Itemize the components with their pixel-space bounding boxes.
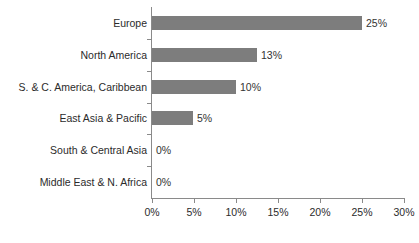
- x-axis-tick: [320, 198, 321, 203]
- x-axis-tick-label: 30%: [393, 206, 414, 218]
- category-label-row: S. & C. America, Caribbean: [0, 71, 147, 103]
- category-label-row: East Asia & Pacific: [0, 103, 147, 135]
- bar-europe: [152, 16, 362, 30]
- category-label-row: Middle East & N. Africa: [0, 166, 147, 198]
- category-label: S. & C. America, Caribbean: [19, 81, 147, 93]
- bar-row: 5%: [152, 103, 404, 135]
- x-axis-tick-label: 0%: [144, 206, 159, 218]
- x-axis-tick-label: 5%: [186, 206, 201, 218]
- category-label: Middle East & N. Africa: [40, 176, 147, 188]
- x-axis-tick: [404, 198, 405, 203]
- x-axis-tick-label: 10%: [225, 206, 246, 218]
- x-axis-tick: [194, 198, 195, 203]
- bar-chart: Europe North America S. & C. America, Ca…: [0, 0, 419, 243]
- category-axis-labels: Europe North America S. & C. America, Ca…: [0, 7, 147, 198]
- category-label-row: North America: [0, 39, 147, 71]
- bar-row: 0%: [152, 166, 404, 198]
- bar-row: 25%: [152, 7, 404, 39]
- category-label: Europe: [113, 17, 147, 29]
- x-axis-tick: [236, 198, 237, 203]
- bar-value-label: 0%: [152, 176, 171, 188]
- bar-value-label: 25%: [362, 17, 387, 29]
- bar-value-label: 0%: [152, 144, 171, 156]
- category-label: South & Central Asia: [50, 144, 147, 156]
- bar-value-label: 10%: [236, 81, 261, 93]
- bar-north-america: [152, 48, 257, 62]
- x-axis-tick-label: 15%: [267, 206, 288, 218]
- x-axis-tick: [278, 198, 279, 203]
- bar-value-label: 13%: [257, 49, 282, 61]
- plot-area: 25% 13% 10% 5% 0% 0%: [152, 7, 404, 198]
- bar-row: 0%: [152, 134, 404, 166]
- x-axis-tick-label: 25%: [351, 206, 372, 218]
- bar-row: 10%: [152, 71, 404, 103]
- bar-east-asia-pacific: [152, 111, 193, 125]
- x-axis-tick: [362, 198, 363, 203]
- category-label: North America: [80, 49, 147, 61]
- x-axis-tick-label: 20%: [309, 206, 330, 218]
- bar-value-label: 5%: [193, 112, 212, 124]
- category-label: East Asia & Pacific: [59, 112, 147, 124]
- category-label-row: Europe: [0, 7, 147, 39]
- bar-row: 13%: [152, 39, 404, 71]
- category-label-row: South & Central Asia: [0, 134, 147, 166]
- x-axis-tick: [152, 198, 153, 203]
- bar-s-c-america-caribbean: [152, 80, 236, 94]
